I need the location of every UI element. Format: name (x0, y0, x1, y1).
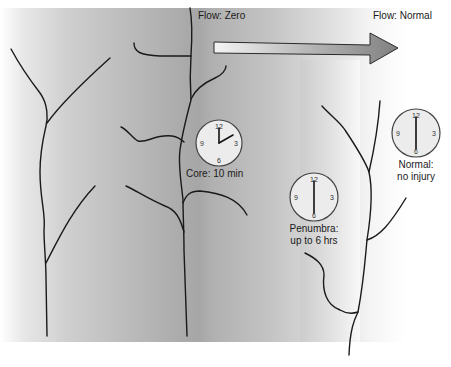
svg-text:9: 9 (200, 140, 204, 147)
clock-core: 12 3 6 9 (196, 120, 242, 166)
label-normal: Normal: no injury (388, 159, 444, 183)
label-core: Core: 10 min (186, 168, 243, 180)
svg-text:3: 3 (234, 140, 238, 147)
svg-text:9: 9 (396, 130, 400, 137)
label-penumbra-title: Penumbra: (282, 223, 346, 235)
svg-text:3: 3 (330, 194, 334, 201)
clock-penumbra: 12 3 6 9 (290, 173, 338, 221)
svg-text:3: 3 (432, 130, 436, 137)
label-normal-title: Normal: (388, 159, 444, 171)
ischemia-diagram: 12 3 6 9 12 3 6 9 12 3 6 9 Flow: Zero Fl… (0, 0, 451, 367)
svg-text:6: 6 (217, 157, 221, 164)
label-penumbra-time: up to 6 hrs (282, 235, 346, 247)
label-normal-desc: no injury (388, 171, 444, 183)
svg-text:9: 9 (294, 194, 298, 201)
clock-normal: 12 3 6 9 (392, 109, 440, 157)
diagram-canvas: 12 3 6 9 12 3 6 9 12 3 6 9 (0, 0, 451, 367)
label-flow-normal: Flow: Normal (373, 10, 432, 22)
label-flow-zero: Flow: Zero (198, 10, 245, 22)
label-penumbra: Penumbra: up to 6 hrs (282, 223, 346, 247)
